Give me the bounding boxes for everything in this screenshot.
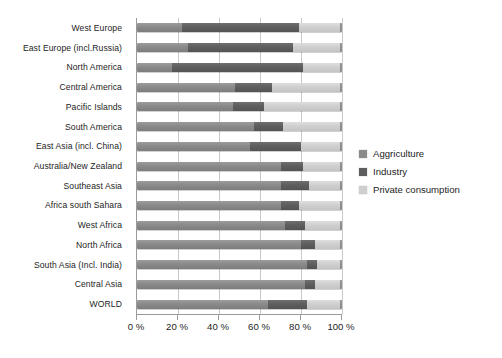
bar-segment[interactable] bbox=[137, 23, 182, 32]
bar-row bbox=[137, 77, 342, 97]
bar-segment[interactable] bbox=[188, 43, 293, 52]
bar-segment[interactable] bbox=[305, 221, 342, 230]
bar-segment[interactable] bbox=[299, 201, 342, 210]
legend-item[interactable]: Industry bbox=[359, 166, 460, 177]
bar-segment[interactable] bbox=[317, 260, 342, 269]
bar-segment[interactable] bbox=[303, 63, 342, 72]
bar-segment[interactable] bbox=[301, 240, 315, 249]
category-label: West Africa bbox=[0, 215, 129, 235]
x-axis-ticks bbox=[136, 314, 341, 321]
stacked-bar[interactable] bbox=[137, 122, 342, 131]
bar-segment[interactable] bbox=[264, 102, 342, 111]
bar-row bbox=[137, 196, 342, 216]
bar-end-cap bbox=[340, 201, 342, 210]
bar-segment[interactable] bbox=[283, 122, 342, 131]
bar-segment[interactable] bbox=[137, 201, 281, 210]
stacked-bar[interactable] bbox=[137, 300, 342, 309]
category-label: Pacific Islands bbox=[0, 97, 129, 117]
category-label: South America bbox=[0, 117, 129, 137]
bar-end-cap bbox=[340, 63, 342, 72]
bar-segment[interactable] bbox=[137, 181, 281, 190]
bar-segment[interactable] bbox=[315, 240, 342, 249]
bar-segment[interactable] bbox=[137, 63, 172, 72]
bar-end-cap bbox=[340, 102, 342, 111]
bar-segment[interactable] bbox=[172, 63, 303, 72]
bar-end-cap bbox=[340, 162, 342, 171]
bar-segment[interactable] bbox=[315, 280, 342, 289]
bar-row bbox=[137, 235, 342, 255]
x-axis-tick bbox=[218, 314, 219, 320]
bar-segment[interactable] bbox=[137, 280, 305, 289]
bar-row bbox=[137, 57, 342, 77]
bar-segment[interactable] bbox=[285, 221, 306, 230]
bar-segment[interactable] bbox=[137, 240, 301, 249]
bar-segment[interactable] bbox=[281, 162, 304, 171]
bar-end-cap bbox=[340, 181, 342, 190]
bar-segment[interactable] bbox=[268, 300, 307, 309]
bar-segment[interactable] bbox=[137, 221, 285, 230]
stacked-bar[interactable] bbox=[137, 102, 342, 111]
stacked-bar[interactable] bbox=[137, 83, 342, 92]
legend-item[interactable]: Aggriculture bbox=[359, 148, 460, 159]
x-axis-tick-label: 0 % bbox=[128, 321, 145, 332]
bar-segment[interactable] bbox=[235, 83, 272, 92]
plot-area bbox=[136, 18, 342, 314]
x-axis-tick-label: 40 % bbox=[207, 321, 229, 332]
bar-segment[interactable] bbox=[305, 280, 315, 289]
bar-segment[interactable] bbox=[309, 181, 342, 190]
bar-row bbox=[137, 156, 342, 176]
bar-row bbox=[137, 117, 342, 137]
bar-segment[interactable] bbox=[293, 43, 342, 52]
category-label: Central America bbox=[0, 77, 129, 97]
bar-segment[interactable] bbox=[281, 181, 310, 190]
bar-segment[interactable] bbox=[137, 83, 235, 92]
stacked-bar[interactable] bbox=[137, 240, 342, 249]
bar-segment[interactable] bbox=[137, 162, 281, 171]
bar-segment[interactable] bbox=[272, 83, 342, 92]
bar-row bbox=[137, 136, 342, 156]
bar-segment[interactable] bbox=[307, 260, 317, 269]
bar-segment[interactable] bbox=[303, 162, 342, 171]
bar-segment[interactable] bbox=[137, 300, 268, 309]
x-axis-tick bbox=[259, 314, 260, 320]
bar-segment[interactable] bbox=[137, 142, 250, 151]
x-axis-tick bbox=[177, 314, 178, 320]
legend-item[interactable]: Private consumption bbox=[359, 184, 460, 195]
category-label: WORLD bbox=[0, 294, 129, 314]
x-axis-tick bbox=[341, 314, 342, 320]
stacked-bar[interactable] bbox=[137, 142, 342, 151]
stacked-bar[interactable] bbox=[137, 43, 342, 52]
legend-swatch-icon bbox=[359, 150, 367, 158]
bar-segment[interactable] bbox=[281, 201, 299, 210]
bar-segment[interactable] bbox=[233, 102, 264, 111]
category-label: Africa south Sahara bbox=[0, 196, 129, 216]
bar-segment[interactable] bbox=[137, 260, 307, 269]
bar-segment[interactable] bbox=[250, 142, 301, 151]
bar-segment[interactable] bbox=[137, 102, 233, 111]
stacked-bar[interactable] bbox=[137, 162, 342, 171]
bar-segment[interactable] bbox=[299, 23, 342, 32]
stacked-bar[interactable] bbox=[137, 63, 342, 72]
bar-row bbox=[137, 275, 342, 295]
stacked-bar[interactable] bbox=[137, 201, 342, 210]
bar-end-cap bbox=[340, 83, 342, 92]
stacked-bar[interactable] bbox=[137, 23, 342, 32]
bar-end-cap bbox=[340, 280, 342, 289]
category-label: North Africa bbox=[0, 235, 129, 255]
legend-swatch-icon bbox=[359, 186, 367, 194]
stacked-bar[interactable] bbox=[137, 260, 342, 269]
category-axis-labels: West EuropeEast Europe (incl.Russia)Nort… bbox=[0, 18, 129, 314]
stacked-bar-chart: West EuropeEast Europe (incl.Russia)Nort… bbox=[0, 0, 502, 358]
stacked-bar[interactable] bbox=[137, 280, 342, 289]
bar-segment[interactable] bbox=[137, 43, 188, 52]
stacked-bar[interactable] bbox=[137, 221, 342, 230]
bar-segment[interactable] bbox=[301, 142, 342, 151]
bar-row bbox=[137, 215, 342, 235]
category-label: Southeast Asia bbox=[0, 176, 129, 196]
bar-segment[interactable] bbox=[254, 122, 283, 131]
bar-segment[interactable] bbox=[137, 122, 254, 131]
bar-segment[interactable] bbox=[182, 23, 299, 32]
bar-segment[interactable] bbox=[307, 300, 342, 309]
x-axis-tick-label: 100 % bbox=[327, 321, 354, 332]
stacked-bar[interactable] bbox=[137, 181, 342, 190]
